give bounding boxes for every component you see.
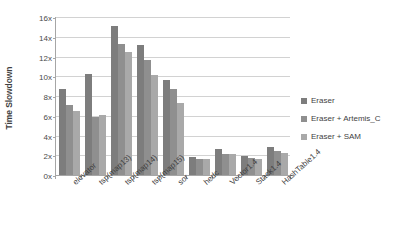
bar bbox=[196, 159, 203, 175]
y-axis-tick-label: 6x bbox=[44, 112, 52, 121]
y-axis-tick-label: 10x bbox=[39, 73, 52, 82]
y-axis-tick-label: 4x bbox=[44, 132, 52, 141]
y-axis-tick-label: 8x bbox=[44, 93, 52, 102]
legend-item[interactable]: Eraser bbox=[301, 92, 407, 110]
y-axis-tick-label: 12x bbox=[39, 53, 52, 62]
y-axis-title: Time Slowdown bbox=[2, 42, 16, 154]
bar-group bbox=[56, 17, 82, 175]
legend-item[interactable]: Eraser + Artemis_C bbox=[301, 110, 407, 128]
bar bbox=[66, 105, 73, 175]
bar-chart: Time Slowdown 0x2x4x6x8x10x12x14x16x ele… bbox=[0, 0, 409, 243]
y-axis-tick-label: 0x bbox=[44, 172, 52, 181]
legend: EraserEraser + Artemis_CEraser + SAM bbox=[301, 92, 407, 146]
bar bbox=[59, 89, 66, 175]
bar-group bbox=[238, 17, 264, 175]
bar bbox=[85, 74, 92, 175]
legend-item[interactable]: Eraser + SAM bbox=[301, 128, 407, 146]
legend-label: Eraser + SAM bbox=[311, 132, 361, 142]
bar bbox=[163, 80, 170, 175]
bar bbox=[73, 111, 80, 175]
bar-group bbox=[82, 17, 108, 175]
bar bbox=[189, 157, 196, 175]
legend-label: Eraser + Artemis_C bbox=[311, 114, 381, 124]
bars-layer bbox=[56, 17, 290, 175]
y-axis-tick-label: 2x bbox=[44, 152, 52, 161]
legend-swatch-icon bbox=[301, 116, 307, 122]
bar-group bbox=[134, 17, 160, 175]
bar bbox=[111, 26, 118, 175]
bar bbox=[137, 45, 144, 175]
legend-label: Eraser bbox=[311, 96, 335, 106]
bar-group bbox=[212, 17, 238, 175]
x-axis-labels: elevatortsp(map13)tsp(map14)tsp(map15)so… bbox=[55, 178, 290, 240]
plot-area: 0x2x4x6x8x10x12x14x16x bbox=[55, 17, 290, 175]
legend-swatch-icon bbox=[301, 98, 307, 104]
bar bbox=[222, 154, 229, 175]
legend-swatch-icon bbox=[301, 134, 307, 140]
bar-group bbox=[108, 17, 134, 175]
bar-group bbox=[186, 17, 212, 175]
bar-group bbox=[264, 17, 290, 175]
bar bbox=[99, 115, 106, 175]
plot-area-wrapper: 0x2x4x6x8x10x12x14x16x bbox=[55, 17, 290, 175]
bar-group bbox=[160, 17, 186, 175]
bar bbox=[229, 154, 236, 175]
y-axis-tick-label: 14x bbox=[39, 33, 52, 42]
y-axis-tick-label: 16x bbox=[39, 14, 52, 23]
